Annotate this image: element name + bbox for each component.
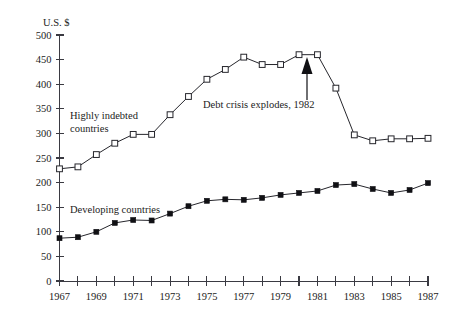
y-tick-label: 450: [36, 54, 52, 65]
y-axis-unit-label: U.S. $: [43, 17, 70, 28]
x-tick-label: 1967: [49, 291, 70, 302]
data-point-open-square: [149, 131, 155, 137]
data-point-filled-square: [426, 181, 431, 186]
x-axis-ticks: 1967196919711973197519771979198119831985…: [49, 276, 439, 302]
data-point-open-square: [75, 164, 81, 170]
data-point-filled-square: [94, 229, 99, 234]
data-point-open-square: [93, 152, 99, 158]
x-tick-label: 1969: [86, 291, 107, 302]
series-label-highly-indebted: Highly indebted countries: [70, 110, 139, 134]
y-tick-label: 50: [41, 251, 52, 262]
data-point-filled-square: [204, 198, 209, 203]
series-label-developing-countries: Developing countries: [70, 204, 160, 215]
chart-figure: U.S. $ 050100150200250300350400450500 19…: [0, 0, 450, 316]
data-point-open-square: [388, 136, 394, 142]
y-tick-label: 400: [36, 79, 52, 90]
y-tick-label: 100: [36, 226, 52, 237]
y-tick-label: 250: [36, 153, 52, 164]
data-point-open-square: [130, 131, 136, 137]
data-point-open-square: [186, 94, 192, 100]
data-point-filled-square: [57, 236, 62, 241]
series-label-highly-indebted-line1: Highly indebted: [70, 110, 139, 121]
y-tick-label: 500: [36, 30, 52, 41]
data-point-open-square: [204, 76, 210, 82]
data-point-filled-square: [297, 190, 302, 195]
data-point-open-square: [222, 67, 228, 73]
data-point-filled-square: [168, 211, 173, 216]
data-point-open-square: [333, 85, 339, 91]
annotation-debt-crisis: Debt crisis explodes, 1982: [203, 57, 314, 110]
x-tick-label: 1977: [233, 291, 254, 302]
data-point-filled-square: [186, 204, 191, 209]
data-point-filled-square: [333, 183, 338, 188]
series-label-highly-indebted-line2: countries: [70, 123, 109, 134]
data-point-filled-square: [260, 195, 265, 200]
data-point-filled-square: [149, 218, 154, 223]
data-point-open-square: [259, 62, 265, 68]
data-point-filled-square: [315, 188, 320, 193]
x-tick-label: 1985: [381, 291, 402, 302]
y-tick-label: 300: [36, 128, 52, 139]
data-point-open-square: [315, 52, 321, 58]
data-point-filled-square: [389, 190, 394, 195]
data-point-filled-square: [370, 187, 375, 192]
data-point-filled-square: [112, 220, 117, 225]
annotation-debt-crisis-label: Debt crisis explodes, 1982: [203, 99, 314, 110]
x-axis: 1967196919711973197519771979198119831985…: [49, 276, 439, 302]
data-point-open-square: [407, 136, 413, 142]
annotation-arrow-head-icon: [302, 57, 313, 74]
y-tick-label: 150: [36, 202, 52, 213]
data-point-open-square: [167, 112, 173, 118]
y-tick-label: 200: [36, 177, 52, 188]
x-tick-label: 1975: [196, 291, 217, 302]
data-point-filled-square: [75, 235, 80, 240]
x-tick-label: 1979: [270, 291, 291, 302]
data-point-open-square: [241, 54, 247, 60]
data-point-open-square: [425, 135, 431, 141]
y-axis: 050100150200250300350400450500: [36, 30, 64, 287]
data-point-filled-square: [278, 192, 283, 197]
data-point-filled-square: [352, 182, 357, 187]
data-point-filled-square: [131, 217, 136, 222]
data-point-open-square: [278, 62, 284, 68]
data-point-filled-square: [407, 187, 412, 192]
data-point-open-square: [351, 132, 357, 138]
x-tick-label: 1983: [344, 291, 365, 302]
x-tick-label: 1971: [123, 291, 144, 302]
data-point-filled-square: [223, 197, 228, 202]
data-point-filled-square: [241, 197, 246, 202]
x-tick-label: 1973: [160, 291, 181, 302]
chart-svg: U.S. $ 050100150200250300350400450500 19…: [0, 0, 450, 316]
data-point-open-square: [57, 166, 63, 172]
data-point-open-square: [370, 138, 376, 144]
y-tick-label: 350: [36, 103, 52, 114]
x-tick-label: 1981: [307, 291, 328, 302]
x-tick-label: 1987: [418, 291, 439, 302]
data-point-open-square: [112, 140, 118, 146]
data-point-open-square: [296, 52, 302, 58]
y-tick-label: 0: [46, 276, 51, 287]
